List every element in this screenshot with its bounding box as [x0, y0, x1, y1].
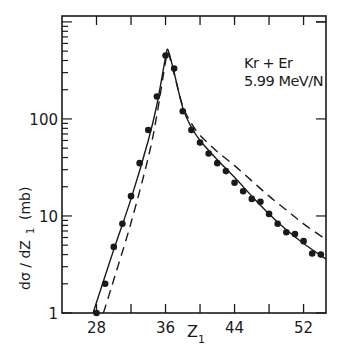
data-point	[266, 211, 273, 218]
data-point	[128, 193, 135, 200]
data-point	[300, 238, 307, 245]
tick-labels: 28364452110100	[29, 111, 313, 337]
data-point	[205, 150, 212, 157]
data-points	[93, 52, 324, 316]
x-axis-label-subscript: 1	[198, 333, 205, 346]
data-point	[214, 160, 221, 167]
data-point	[188, 127, 195, 134]
data-point	[93, 310, 100, 317]
x-tick-label: 28	[87, 319, 106, 337]
y-tick-label: 100	[29, 111, 58, 129]
data-point	[240, 188, 247, 195]
data-point	[171, 65, 178, 72]
data-point	[110, 244, 117, 251]
y-axis-unit: (mb)	[17, 187, 33, 220]
data-point	[136, 160, 143, 167]
data-point	[231, 179, 238, 186]
x-axis-label: Z	[187, 322, 198, 341]
chart: 28364452110100 Kr + Er 5.99 MeV/N Z 1 dσ…	[0, 0, 341, 360]
data-point	[249, 196, 256, 203]
data-point	[223, 168, 230, 175]
data-point	[145, 127, 152, 134]
x-tick-label: 52	[294, 319, 313, 337]
data-point	[197, 139, 204, 146]
x-axis-title: Z 1	[187, 322, 205, 346]
data-point	[309, 250, 316, 257]
data-point	[318, 251, 325, 258]
data-point	[154, 93, 161, 100]
x-tick-label: 36	[156, 319, 175, 337]
y-tick-label: 1	[48, 305, 58, 323]
annotation-energy: 5.99 MeV/N	[244, 73, 323, 89]
data-point	[102, 280, 109, 287]
annotation-system: Kr + Er	[244, 55, 293, 71]
x-tick-label: 44	[225, 319, 244, 337]
data-point	[179, 108, 186, 115]
data-point	[274, 221, 281, 228]
data-point	[292, 231, 299, 238]
data-point	[119, 221, 126, 228]
data-point	[162, 52, 169, 59]
y-axis-title: dσ / dZ 1 (mb)	[17, 187, 36, 290]
y-axis-label: dσ / dZ	[17, 240, 33, 290]
data-point	[257, 198, 264, 205]
data-point	[283, 229, 290, 236]
y-tick-label: 10	[39, 208, 58, 226]
y-axis-label-subscript: 1	[25, 228, 36, 234]
